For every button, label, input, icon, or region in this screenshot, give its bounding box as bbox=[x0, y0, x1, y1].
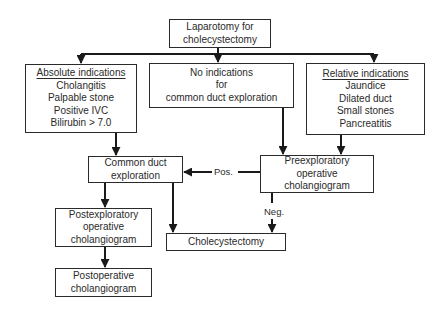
node-text: Postexploratory bbox=[69, 209, 138, 222]
node-text: Positive IVC bbox=[54, 105, 108, 118]
node-text: cholecystectomy bbox=[183, 34, 257, 47]
node-text: cholangiogram bbox=[71, 283, 137, 296]
node-laparotomy: Laparotomy for cholecystectomy bbox=[169, 19, 271, 48]
node-text: Common duct bbox=[104, 157, 166, 170]
node-text: cholangiogram bbox=[284, 180, 350, 193]
node-text: for bbox=[216, 79, 228, 92]
node-relative-indications: Relative indications Jaundice Dilated du… bbox=[306, 63, 425, 135]
node-text: Laparotomy for bbox=[186, 21, 253, 34]
node-text: Preexploratory bbox=[284, 155, 349, 168]
node-header: Relative indications bbox=[322, 68, 408, 81]
node-text: operative bbox=[296, 168, 337, 181]
node-text: Bilirubin > 7.0 bbox=[51, 117, 112, 130]
node-no-indications: No indications for common duct explorati… bbox=[149, 63, 294, 108]
edge-label-neg: Neg. bbox=[264, 206, 284, 217]
node-text: operative bbox=[83, 221, 124, 234]
node-header: Absolute indications bbox=[37, 67, 126, 80]
node-text: Small stones bbox=[337, 105, 394, 118]
node-common-duct-exploration: Common duct exploration bbox=[88, 156, 183, 183]
node-text: Pancreatitis bbox=[339, 118, 391, 131]
edge-label-pos: Pos. bbox=[214, 166, 233, 177]
node-text: Dilated duct bbox=[339, 93, 392, 106]
node-text: common duct exploration bbox=[166, 92, 278, 105]
node-text: cholangiogram bbox=[71, 234, 137, 247]
node-text: exploration bbox=[111, 170, 160, 183]
node-absolute-indications: Absolute indications Cholangitis Palpabl… bbox=[25, 64, 137, 133]
node-text: Postoperative bbox=[73, 270, 134, 283]
node-postoperative-cholangiogram: Postoperative cholangiogram bbox=[55, 268, 152, 297]
node-preexploratory-cholangiogram: Preexploratory operative cholangiogram bbox=[260, 155, 374, 193]
node-text: Jaundice bbox=[345, 80, 385, 93]
node-text: No indications bbox=[190, 67, 253, 80]
node-text: Palpable stone bbox=[48, 92, 114, 105]
node-text: Cholecystectomy bbox=[188, 236, 264, 249]
node-cholecystectomy: Cholecystectomy bbox=[166, 233, 286, 251]
node-postexploratory-cholangiogram: Postexploratory operative cholangiogram bbox=[55, 208, 152, 247]
node-text: Cholangitis bbox=[56, 80, 105, 93]
